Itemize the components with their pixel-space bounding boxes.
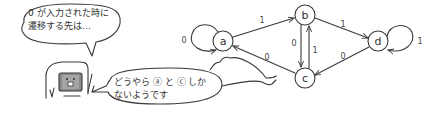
state-c: c <box>295 68 315 88</box>
state-c-label: c <box>302 72 308 85</box>
edge-label-b-d: 1 <box>340 20 345 29</box>
edge-label-a-b: 1 <box>259 16 264 25</box>
edge-label-d-d: 1 <box>417 37 422 46</box>
state-a-label: a <box>220 35 227 48</box>
edge-label-a-a: 0 <box>181 36 186 45</box>
speech-bubble-bottom-text: どうやら ⓐ と ⓒ しか ないようです <box>114 76 206 102</box>
edge-d-d <box>387 26 413 51</box>
edge-label-c-a: 0 <box>264 53 269 62</box>
speech-bubble-top-text: 0 が入力された時に 遷移する先は… <box>28 7 109 33</box>
state-b: b <box>295 5 315 25</box>
state-d: d <box>368 31 388 51</box>
state-a: a <box>213 31 233 51</box>
edge-label-b-c: 0 <box>291 39 296 48</box>
robot-character-icon <box>46 62 94 98</box>
state-d-label: d <box>375 35 382 48</box>
speech-bubble-bottom-line1: どうやら ⓐ と ⓒ しか <box>114 76 206 89</box>
edge-label-c-b: 1 <box>312 46 317 55</box>
state-b-label: b <box>302 9 309 22</box>
speech-bubble-top-line2: 遷移する先は… <box>28 20 109 33</box>
speech-bubble-bottom-line2: ないようです <box>114 89 206 102</box>
edge-label-d-c: 0 <box>340 52 345 61</box>
speech-bubble-top-line1: 0 が入力された時に <box>28 7 109 20</box>
